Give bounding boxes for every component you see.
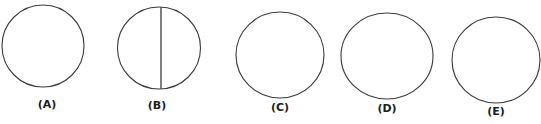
circle-e-icon — [0, 0, 541, 124]
shape-label-e: (E) — [466, 105, 526, 118]
shape-figure: (A) (B) (C) (D) (E) — [0, 0, 541, 124]
circle-e-outline — [452, 17, 540, 103]
